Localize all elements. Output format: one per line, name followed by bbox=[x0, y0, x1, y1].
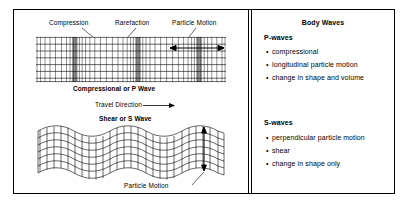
p-waves-bullet-3: •change in shape and volume bbox=[266, 74, 364, 81]
label-travel-direction: Travel Direction bbox=[95, 101, 142, 109]
s-waves-bullet-1-text: perpendicular particle motion bbox=[272, 134, 365, 141]
body-waves-panel: Body Waves P-waves •compressional •longi… bbox=[252, 10, 394, 193]
panel-divider-left bbox=[248, 10, 249, 193]
caption-s-wave: Shear or S Wave bbox=[99, 115, 152, 123]
p-waves-bullet-2: •longitudinal particle motion bbox=[266, 61, 358, 68]
label-particle-motion-bottom: Particle Motion bbox=[124, 182, 169, 190]
s-waves-bullet-1: •perpendicular particle motion bbox=[266, 134, 365, 141]
p-waves-bullet-1-text: compressional bbox=[272, 48, 318, 55]
s-waves-bullet-2-text: shear bbox=[272, 147, 290, 154]
p-waves-bullet-3-text: change in shape and volume bbox=[272, 74, 364, 81]
p-waves-bullet-1: •compressional bbox=[266, 48, 318, 55]
s-waves-heading: S-waves bbox=[264, 119, 293, 126]
wave-diagram-panel: Compression Rarefaction Particle Motion bbox=[14, 10, 248, 193]
travel-direction-arrow bbox=[143, 101, 177, 111]
s-waves-bullet-2: •shear bbox=[266, 147, 290, 154]
caption-p-wave: Compressional or P Wave bbox=[73, 85, 155, 93]
body-waves-title: Body Waves bbox=[252, 19, 394, 26]
seismic-wave-figure: Compression Rarefaction Particle Motion bbox=[13, 9, 395, 194]
vertical-particle-motion-arrow bbox=[202, 127, 207, 171]
p-wave-grid bbox=[36, 37, 226, 82]
s-waves-bullet-3: •change in shape only bbox=[266, 160, 340, 167]
p-waves-bullet-2-text: longitudinal particle motion bbox=[272, 61, 358, 68]
s-waves-bullet-3-text: change in shape only bbox=[272, 160, 340, 167]
p-waves-heading: P-waves bbox=[264, 34, 293, 41]
